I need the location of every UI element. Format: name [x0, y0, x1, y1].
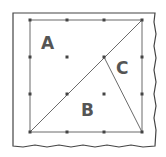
diagram-canvas: A B C — [0, 0, 166, 157]
region-label-a: A — [41, 33, 55, 53]
region-label-c: C — [116, 58, 128, 78]
region-label-b: B — [81, 100, 94, 120]
